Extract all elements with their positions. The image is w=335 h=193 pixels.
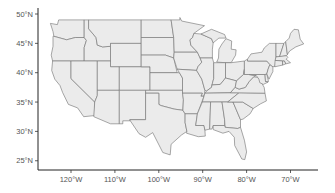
x-tick-label: 100°W (148, 175, 172, 184)
state-fl (213, 126, 246, 160)
state-ct (275, 60, 283, 66)
us-states-map: 50°N45°N40°N35°N30°N25°N 120°W110°W100°W… (0, 0, 335, 193)
state-me (286, 29, 304, 54)
state-az (94, 90, 120, 124)
y-tick-label: 35°N (16, 98, 33, 107)
state-wy (111, 43, 142, 66)
y-tick-label: 45°N (16, 39, 33, 48)
state-nd (141, 20, 174, 38)
y-axis-ticks: 50°N45°N40°N35°N30°N25°N (16, 10, 38, 166)
state-ks (150, 73, 183, 91)
y-tick-label: 40°N (16, 68, 33, 77)
state-or (51, 36, 86, 61)
state-pa (244, 59, 270, 74)
y-tick-label: 25°N (16, 156, 33, 165)
y-tick-label: 30°N (16, 127, 33, 136)
state-mi (217, 39, 236, 63)
state-co (119, 67, 150, 91)
y-tick-label: 50°N (16, 10, 33, 19)
x-axis-ticks: 120°W110°W100°W90°W80°W70°W (60, 170, 301, 184)
state-polygons (50, 18, 303, 160)
x-tick-label: 80°W (237, 175, 256, 184)
x-tick-label: 70°W (281, 175, 300, 184)
x-tick-label: 120°W (60, 175, 84, 184)
x-tick-label: 110°W (104, 175, 127, 184)
state-nm (119, 90, 145, 124)
x-tick-label: 90°W (193, 175, 212, 184)
